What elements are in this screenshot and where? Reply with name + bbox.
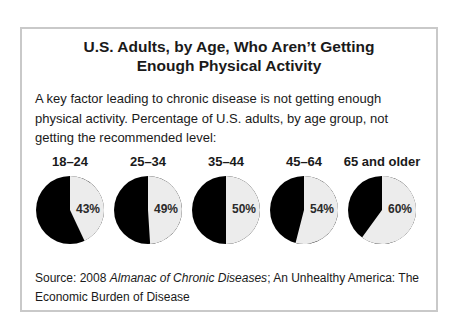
pie-percent-label: 54% [310, 202, 334, 216]
pie-label: 45–64 [259, 154, 349, 169]
pie-percent-label: 50% [232, 202, 256, 216]
source-note: Source: 2008 Almanac of Chronic Diseases… [35, 269, 430, 307]
pie-percent-label: 43% [76, 202, 100, 216]
chart-frame: U.S. Adults, by Age, Who Aren’t Getting … [20, 27, 438, 312]
pie-label: 65 and older [337, 154, 427, 169]
pie-label: 18–24 [25, 154, 115, 169]
pie-label: 25–34 [103, 154, 193, 169]
pie-percent-label: 49% [154, 202, 178, 216]
pie-label: 35–44 [181, 154, 271, 169]
pie-percent-label: 60% [388, 202, 412, 216]
pie-charts: 18–2443%25–3449%35–4450%45–6454%65 and o… [22, 29, 436, 310]
source-italic: Almanac of Chronic Diseases [110, 271, 267, 285]
source-prefix: Source: 2008 [35, 271, 110, 285]
